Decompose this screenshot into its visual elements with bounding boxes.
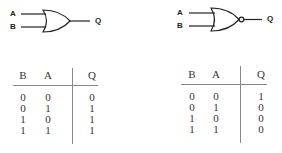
nor-row-4-q: 0 — [254, 124, 268, 135]
or-gate-input-b-label: B — [10, 23, 16, 31]
nor-table-column-divider — [240, 66, 241, 143]
or-gate-input-a-label: A — [10, 10, 16, 18]
nor-row-4-b: 1 — [185, 124, 199, 135]
or-table-column-divider — [72, 68, 73, 144]
or-row-4-a: 1 — [41, 125, 55, 136]
nor-gate-input-a-label: A — [177, 9, 183, 17]
or-gate-output-q-label: Q — [95, 17, 101, 25]
nor-table-header-b: B — [185, 69, 199, 80]
or-table-header-a: A — [41, 70, 55, 81]
nor-table-header-a: A — [209, 69, 223, 80]
nor-table-header-divider — [181, 84, 267, 85]
nor-gate-output-q-label: Q — [267, 15, 273, 23]
or-row-4-q: 1 — [85, 125, 99, 136]
or-table-header-q: Q — [85, 70, 99, 81]
nor-row-4-a: 1 — [209, 124, 223, 135]
nor-table-header-q: Q — [254, 69, 268, 80]
or-row-4-b: 1 — [16, 125, 30, 136]
or-table-header-b: B — [16, 70, 30, 81]
or-table-header-divider — [13, 85, 98, 86]
nor-gate-input-b-label: B — [177, 22, 183, 30]
